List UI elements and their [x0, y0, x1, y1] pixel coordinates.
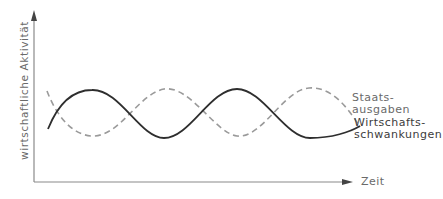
- y-axis-label: wirtschaftliche Aktivität: [18, 21, 30, 160]
- legend-staatsausgaben: Staats- ausgaben: [352, 92, 410, 116]
- legend-staatsausgaben-line2: ausgaben: [352, 104, 410, 116]
- series-staatsausgaben: [47, 88, 360, 136]
- legend-wirtschaftsschwankungen: Wirtschafts- schwankungen: [354, 117, 442, 141]
- series-wirtschaftsschwankungen: [48, 89, 360, 138]
- x-axis-label: Zeit: [361, 176, 385, 188]
- legend-wirtschaft-line2: schwankungen: [354, 129, 442, 141]
- y-axis-arrow-icon: [31, 10, 37, 21]
- x-axis-arrow-icon: [342, 179, 353, 185]
